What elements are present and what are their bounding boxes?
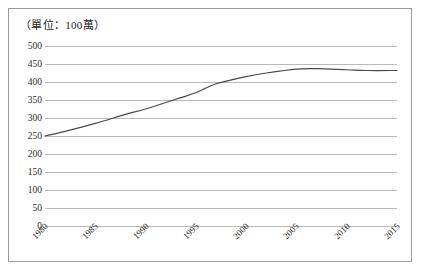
plot-area: 500450400350300250200150100500 198019851… [0,0,422,270]
line-series-value [45,69,397,136]
data-series-group [0,0,422,270]
